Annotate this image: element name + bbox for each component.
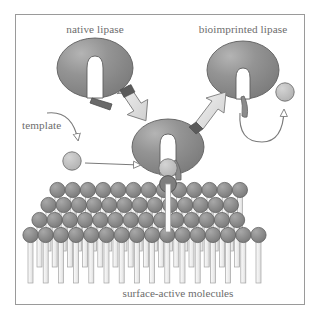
template-label: template [22, 119, 61, 131]
native-lipase-cleft [87, 56, 103, 98]
released-template-molecule [276, 83, 294, 101]
figure-root: native lipase bioimprinted lipase templa… [0, 0, 320, 327]
native-lipase-label: native lipase [66, 23, 124, 35]
free-template-molecule [63, 152, 81, 170]
surface-active-molecules-label: surface-active molecules [123, 287, 234, 299]
bioimprinted-lipase-cleft [236, 68, 250, 99]
bound-template-molecule [159, 159, 177, 177]
bioimprinting-diagram: native lipase bioimprinted lipase templa… [0, 0, 320, 327]
anchor-tail [166, 184, 171, 232]
bioimprinted-lipase-label: bioimprinted lipase [199, 23, 288, 35]
